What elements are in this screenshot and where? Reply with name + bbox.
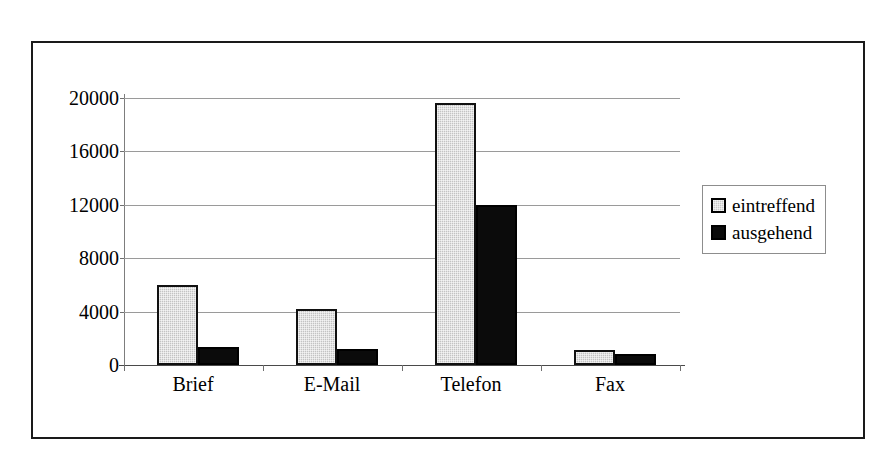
x-tick-mark-4 xyxy=(680,365,681,371)
bar-group-telefon xyxy=(402,98,541,365)
bar-email-eintreffend[interactable] xyxy=(296,309,337,365)
legend-item-ausgehend[interactable]: ausgehend xyxy=(711,219,815,246)
y-axis-tick-labels: 20000 16000 12000 8000 4000 0 xyxy=(33,98,119,365)
x-tick-mark-2 xyxy=(402,365,403,371)
legend-item-eintreffend[interactable]: eintreffend xyxy=(711,192,815,219)
bar-fax-ausgehend[interactable] xyxy=(615,354,656,365)
y-tick-label-8000: 8000 xyxy=(33,248,119,268)
x-axis-tick-labels: Brief E-Mail Telefon Fax xyxy=(124,373,680,407)
x-tick-label-telefon: Telefon xyxy=(441,373,502,396)
bar-email-ausgehend[interactable] xyxy=(337,349,378,365)
legend-label-ausgehend: ausgehend xyxy=(732,223,812,242)
x-tick-mark-3 xyxy=(541,365,542,371)
plot-area xyxy=(124,98,680,365)
bar-brief-eintreffend[interactable] xyxy=(157,285,198,365)
x-tick-label-email: E-Mail xyxy=(304,373,361,396)
bar-group-fax xyxy=(541,98,680,365)
legend-label-eintreffend: eintreffend xyxy=(732,196,815,215)
bar-telefon-ausgehend[interactable] xyxy=(476,205,517,365)
bar-group-email xyxy=(263,98,402,365)
y-tick-label-0: 0 xyxy=(33,355,119,375)
light-gray-square-icon xyxy=(711,198,726,213)
y-tick-label-16000: 16000 xyxy=(33,141,119,161)
y-tick-label-4000: 4000 xyxy=(33,302,119,322)
bar-telefon-eintreffend[interactable] xyxy=(435,103,476,365)
chart-frame: 20000 16000 12000 8000 4000 0 xyxy=(31,41,865,439)
bar-brief-ausgehend[interactable] xyxy=(198,347,239,365)
bar-group-brief xyxy=(124,98,263,365)
bar-fax-eintreffend[interactable] xyxy=(574,350,615,365)
y-tick-label-20000: 20000 xyxy=(33,88,119,108)
x-tick-label-fax: Fax xyxy=(595,373,625,396)
y-tick-label-12000: 12000 xyxy=(33,195,119,215)
x-tick-mark-0 xyxy=(124,365,125,371)
x-tick-mark-1 xyxy=(263,365,264,371)
chart-legend: eintreffend ausgehend xyxy=(702,185,826,254)
x-tick-label-brief: Brief xyxy=(172,373,213,396)
black-square-icon xyxy=(711,225,726,240)
